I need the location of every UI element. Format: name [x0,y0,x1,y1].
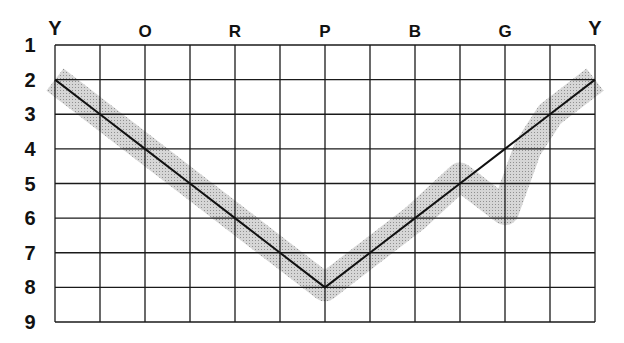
x-axis-labels: YORPBGY [48,17,602,41]
x-tick-label: O [138,22,151,41]
y-tick-label: 4 [24,138,36,160]
y-tick-label: 7 [24,242,35,264]
y-axis-labels: 123456789 [24,34,36,333]
y-tick-label: 1 [24,34,35,56]
y-tick-label: 5 [24,173,35,195]
y-tick-label: 3 [24,103,35,125]
x-tick-label: B [409,22,421,41]
y-tick-label: 9 [24,311,35,333]
x-tick-label: P [319,22,330,41]
y-tick-label: 8 [24,276,35,298]
x-tick-label: Y [588,17,602,39]
x-tick-label: Y [48,17,62,39]
grid [55,45,595,322]
x-tick-label: R [229,22,241,41]
y-tick-label: 6 [24,207,35,229]
chart: YORPBGY 123456789 [0,0,624,343]
x-tick-label: G [498,22,511,41]
y-tick-label: 2 [24,69,35,91]
